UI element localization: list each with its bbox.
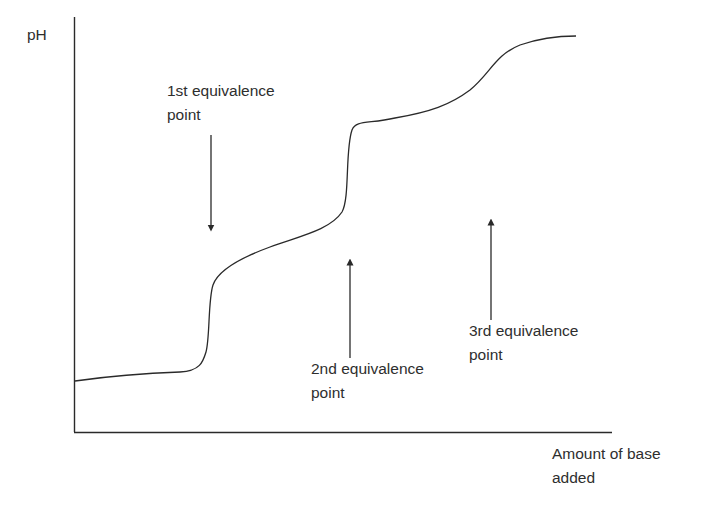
y-axis-label: pH	[27, 23, 47, 47]
x-axis-label-line1: Amount of base	[552, 442, 661, 466]
first-equivalence-line2: point	[167, 103, 275, 127]
first-equivalence-line1: 1st equivalence	[167, 79, 275, 103]
first-equivalence-label: 1st equivalence point	[167, 79, 275, 127]
third-equivalence-line1: 3rd equivalence	[469, 319, 578, 343]
second-equivalence-line1: 2nd equivalence	[311, 357, 424, 381]
second-equivalence-line2: point	[311, 381, 424, 405]
x-axis-label: Amount of base added	[552, 442, 661, 490]
second-equivalence-label: 2nd equivalence point	[311, 357, 424, 405]
x-axis-label-line2: added	[552, 466, 661, 490]
third-equivalence-line2: point	[469, 343, 578, 367]
titration-diagram	[0, 0, 710, 512]
third-equivalence-label: 3rd equivalence point	[469, 319, 578, 367]
